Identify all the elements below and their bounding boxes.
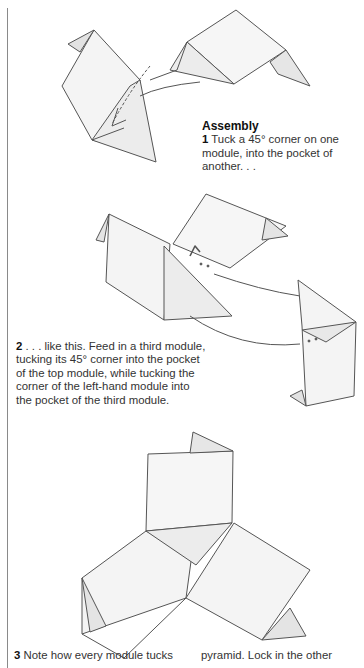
module-assembled-step3: [82, 432, 310, 658]
step-1-caption: Assembly 1 Tuck a 45° corner on one modu…: [202, 120, 362, 174]
module-right-step1: [140, 10, 310, 96]
step-text: Tuck a 45° corner on one module, into th…: [202, 133, 339, 172]
origami-diagrams: [0, 0, 364, 668]
module-right-step2: [290, 280, 356, 406]
continuation-text: pyramid. Lock in the other: [201, 649, 332, 661]
step-text: . . . like this. Feed in a third module,…: [16, 340, 205, 406]
step-2-caption: 2 . . . like this. Feed in a third modul…: [16, 340, 206, 407]
module-left-step2: [96, 194, 300, 345]
illustrations: [0, 0, 364, 668]
step-3-caption: 3 Note how every module tucks: [14, 649, 194, 662]
step-text: Note how every module tucks: [20, 649, 173, 661]
section-heading: Assembly: [202, 120, 362, 133]
module-left-step1: [62, 30, 156, 162]
step-3-continuation: pyramid. Lock in the other: [201, 649, 361, 662]
